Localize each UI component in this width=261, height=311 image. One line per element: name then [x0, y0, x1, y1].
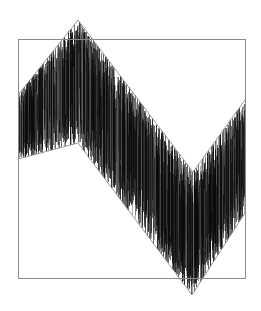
plot-canvas — [0, 0, 261, 311]
noise-envelope-figure — [0, 0, 261, 311]
signal-trace — [18, 22, 245, 295]
